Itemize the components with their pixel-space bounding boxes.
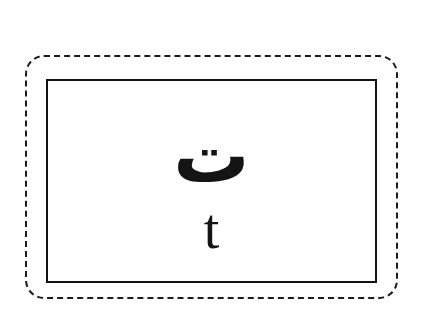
arabic-letter-glyph: ت bbox=[173, 117, 249, 195]
letter-card[interactable]: ت t bbox=[46, 79, 377, 283]
flashcard-canvas: ت t bbox=[0, 0, 429, 320]
transliteration-label: t bbox=[204, 201, 220, 257]
